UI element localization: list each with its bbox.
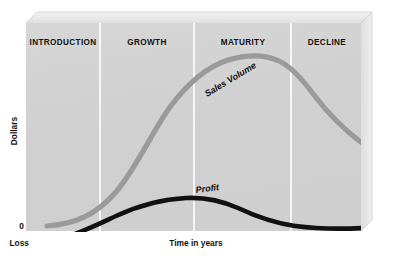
panel-right-bevel bbox=[361, 12, 372, 231]
y-axis-label: Dollars bbox=[9, 116, 19, 145]
x-axis-label: Time in years bbox=[169, 238, 223, 248]
product-life-cycle-chart: INTRODUCTION GROWTH MATURITY DECLINE Sal… bbox=[0, 0, 397, 259]
stage-label-decline: DECLINE bbox=[308, 38, 347, 47]
y-tick-loss: Loss bbox=[9, 238, 29, 248]
y-tick-zero: 0 bbox=[19, 221, 24, 231]
panel-top-bevel bbox=[26, 12, 372, 23]
chart-canvas: INTRODUCTION GROWTH MATURITY DECLINE Sal… bbox=[0, 0, 397, 259]
stage-label-growth: GROWTH bbox=[127, 38, 166, 47]
stage-label-introduction: INTRODUCTION bbox=[30, 38, 97, 47]
stage-label-maturity: MATURITY bbox=[221, 38, 266, 47]
